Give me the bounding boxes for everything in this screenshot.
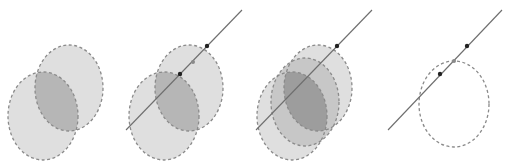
panel-1 <box>8 45 103 160</box>
venn-line-diagram <box>0 0 508 166</box>
set-ellipse-outline <box>419 61 489 147</box>
point-marker <box>178 72 182 76</box>
point-marker <box>452 59 456 63</box>
panel-4 <box>388 10 502 147</box>
point-marker <box>335 44 339 48</box>
straight-line <box>388 10 502 130</box>
point-marker <box>465 44 469 48</box>
point-marker <box>191 60 195 64</box>
point-marker <box>438 72 442 76</box>
point-marker <box>205 44 209 48</box>
panel-2 <box>126 10 242 160</box>
panel-3 <box>256 10 372 160</box>
